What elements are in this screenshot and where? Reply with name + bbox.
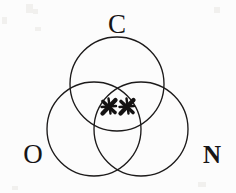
diagram-canvas: C O N [0, 0, 236, 193]
circle-carbon [70, 37, 164, 131]
label-group: C O N [23, 9, 221, 169]
electron-mark-left [102, 99, 117, 114]
label-nitrogen: N [203, 141, 221, 168]
electron-mark-right [120, 99, 135, 114]
circle-group [47, 37, 188, 176]
label-oxygen: O [23, 139, 43, 169]
label-carbon: C [108, 9, 126, 39]
venn-diagram-figure: C O N [0, 0, 236, 193]
